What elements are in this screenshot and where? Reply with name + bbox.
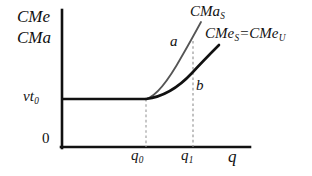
x-axis-title: q bbox=[228, 148, 237, 165]
y-axis-title-line1: CMe bbox=[17, 8, 50, 25]
y-tick-label-vt0: vt0 bbox=[23, 89, 39, 106]
average-cost-label-base-1: CMe bbox=[205, 25, 234, 41]
average-cost-curve-label: CMeS=CMeU bbox=[205, 26, 285, 43]
average-cost-label-subscript-2: U bbox=[278, 33, 285, 43]
origin-label: 0 bbox=[42, 131, 50, 146]
x-tick-q1-base: q bbox=[181, 147, 189, 163]
y-tick-vt0-subscript: 0 bbox=[34, 96, 39, 106]
x-tick-q0-subscript: 0 bbox=[139, 155, 144, 165]
y-axis-title-line2: CMa bbox=[17, 29, 51, 46]
x-tick-label-q0: q0 bbox=[131, 148, 143, 165]
point-a-label: a bbox=[170, 34, 178, 49]
marginal-cost-label-base: CMa bbox=[190, 3, 220, 19]
average-cost-label-base-2: CMe bbox=[249, 25, 278, 41]
average-cost-label-equals: = bbox=[239, 25, 249, 41]
marginal-cost-curve-label: CMaS bbox=[190, 4, 225, 21]
marginal-cost-label-subscript: S bbox=[220, 11, 225, 21]
x-tick-q0-base: q bbox=[131, 147, 139, 163]
cost-curve-figure: CMe CMa vt0 0 q0 q1 q CMaS CMeS=CMeU a b bbox=[0, 0, 312, 176]
y-tick-vt0-base: vt bbox=[23, 88, 34, 104]
x-tick-label-q1: q1 bbox=[181, 148, 193, 165]
x-tick-q1-subscript: 1 bbox=[189, 155, 194, 165]
point-b-label: b bbox=[196, 78, 204, 93]
